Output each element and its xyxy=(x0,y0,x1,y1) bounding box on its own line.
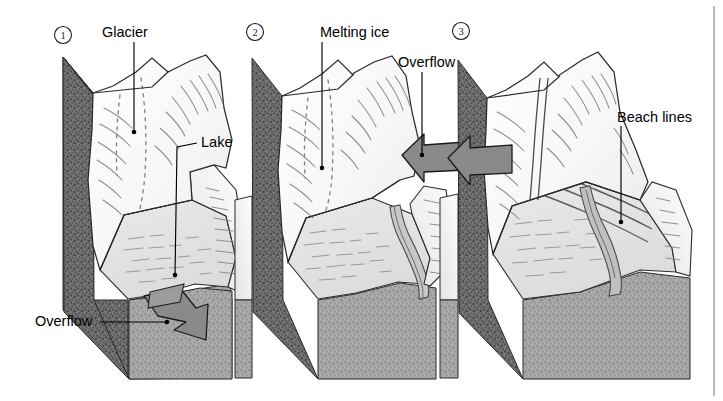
label-overflow-panel-2: Overflow xyxy=(398,54,456,70)
panel-2-number: 2 xyxy=(252,27,257,38)
panel-2-number-badge: 2 xyxy=(247,24,264,41)
panel-2-left-fragment xyxy=(235,196,252,300)
panel-3-number: 3 xyxy=(458,26,463,37)
panel-3-left-fragment-base xyxy=(440,300,458,378)
panel-3-number-badge: 3 xyxy=(453,23,470,40)
glacial-lake-diagram: 1 Glacier Lake Overflow xyxy=(0,0,723,401)
panel-3-left-fragment xyxy=(440,194,458,300)
label-melting-ice: Melting ice xyxy=(320,24,389,40)
panel-1-number: 1 xyxy=(60,30,65,41)
label-lake: Lake xyxy=(201,134,232,150)
panel-1: 1 Glacier Lake Overflow xyxy=(35,24,244,379)
panel-2-front-bedrock-block xyxy=(318,283,436,379)
panel-2-left-fragment-base xyxy=(235,300,252,378)
label-glacier: Glacier xyxy=(102,24,148,40)
label-beach-lines: Beach lines xyxy=(617,109,692,125)
panel-1-number-badge: 1 xyxy=(55,27,72,44)
label-overflow-panel-1: Overflow xyxy=(35,313,93,329)
